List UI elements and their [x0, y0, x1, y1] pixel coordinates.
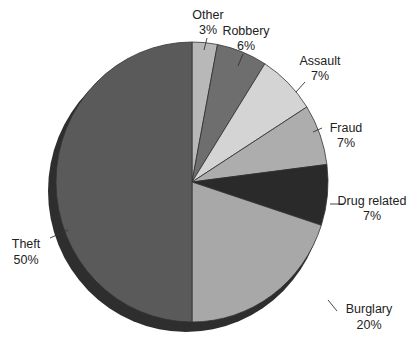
label-fraud-name: Fraud — [330, 121, 363, 135]
label-robbery-name: Robbery — [222, 24, 270, 38]
pie-chart: Other 3% Robbery 6% Assault 7% Fraud 7% … — [0, 0, 413, 342]
label-theft-name: Theft — [12, 237, 41, 251]
leader-line — [296, 82, 305, 92]
leader-line — [328, 300, 337, 311]
label-drug-name: Drug related — [338, 194, 407, 208]
label-burglary-name: Burglary — [346, 302, 393, 316]
label-robbery-pct: 6% — [237, 39, 255, 53]
label-other-pct: 3% — [199, 23, 217, 37]
label-drug-pct: 7% — [363, 209, 381, 223]
label-burglary-pct: 20% — [356, 318, 381, 332]
label-assault-name: Assault — [300, 54, 342, 68]
label-theft-pct: 50% — [13, 253, 38, 267]
label-assault-pct: 7% — [311, 69, 329, 83]
slice-theft — [56, 42, 192, 322]
label-fraud-pct: 7% — [337, 136, 355, 150]
label-other-name: Other — [192, 8, 223, 22]
pie-slices — [56, 42, 328, 322]
